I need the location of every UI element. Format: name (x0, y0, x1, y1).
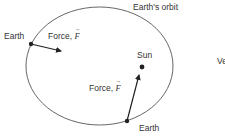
force-top-label: Force, F (48, 32, 80, 41)
force-top-text: Force, (48, 31, 72, 41)
earth-top-label: Earth (4, 32, 24, 41)
force-bottom-text: Force, (89, 83, 113, 93)
force-arrow-bottom (127, 75, 139, 121)
force-vector-symbol: F (74, 32, 79, 41)
orbit-label: Earth's orbit (133, 3, 178, 12)
earth-bottom-label: Earth (139, 124, 159, 133)
sun-dot (140, 65, 145, 70)
orbit-diagram (0, 0, 225, 139)
earth-orbit-ellipse (26, 7, 173, 125)
force-arrow-top (31, 44, 61, 51)
sun-label: Sun (137, 51, 152, 60)
force-vector-symbol: F (115, 84, 120, 93)
force-bottom-label: Force, F (89, 84, 121, 93)
cropped-text: Ve (217, 57, 225, 66)
